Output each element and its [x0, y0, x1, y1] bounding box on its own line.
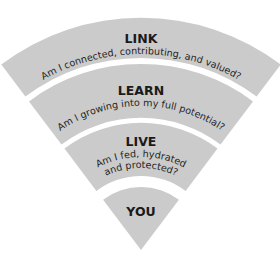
live-title: LIVE — [126, 134, 157, 149]
wifi-layers-diagram: LINK Am I connected, contributing, and v… — [0, 0, 280, 258]
link-title: LINK — [125, 31, 159, 46]
you-title: YOU — [125, 204, 155, 219]
learn-title: LEARN — [118, 83, 164, 98]
